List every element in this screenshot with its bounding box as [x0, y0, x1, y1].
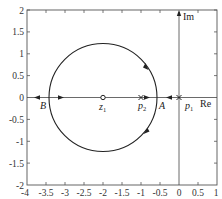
y-tick-label: 1.5	[12, 27, 24, 37]
x-tick-label: -1	[137, 188, 145, 198]
axis-arrow-p2-icon	[144, 95, 150, 99]
x-tick-label: -0.5	[152, 188, 167, 198]
x-tick-label: 1	[214, 188, 219, 198]
x-tick-label: -4	[21, 188, 29, 198]
y-tick-labels: 2 1.5 1 0.5 0 -0.5 -1 -1.5 -2	[9, 6, 24, 191]
im-axis-arrow-icon	[177, 10, 181, 16]
y-tick-label: -0.5	[9, 115, 24, 125]
point-a-label: A	[158, 100, 166, 111]
y-tick-label: -1.5	[9, 159, 24, 169]
zero-z1-label: z1	[98, 101, 106, 113]
y-tick-label: 0.5	[12, 71, 24, 81]
axis-arrow-right-b-icon	[58, 95, 64, 99]
x-tick-label: -3.5	[38, 188, 53, 198]
x-tick-label: -2	[99, 188, 107, 198]
x-tick-label: -2.5	[76, 188, 91, 198]
im-axis-label: Im	[183, 11, 194, 22]
pole-p1-label: p1	[184, 100, 193, 112]
y-tick-label: -1	[16, 137, 24, 147]
x-tick-label: -3	[61, 188, 69, 198]
re-axis-label: Re	[200, 98, 212, 109]
y-tick-label: 0	[19, 93, 24, 103]
point-b-label: B	[40, 100, 46, 111]
x-tick-label: 0	[177, 188, 182, 198]
y-tick-label: 2	[19, 6, 24, 16]
y-tick-label: 1	[19, 49, 24, 59]
zero-marker-icon	[101, 95, 105, 99]
root-locus-plot: 2 1.5 1 0.5 0 -0.5 -1 -1.5 -2 -4 -3.5 -3…	[0, 0, 222, 199]
y-ticks	[27, 10, 217, 163]
axis-arrow-p1-icon	[166, 95, 172, 99]
x-tick-label: -1.5	[114, 188, 129, 198]
x-tick-labels: -4 -3.5 -3 -2.5 -2 -1.5 -1 -0.5 0 0.5 1	[21, 188, 219, 198]
x-tick-label: 0.5	[192, 188, 204, 198]
pole-p2-label: p2	[137, 100, 146, 112]
